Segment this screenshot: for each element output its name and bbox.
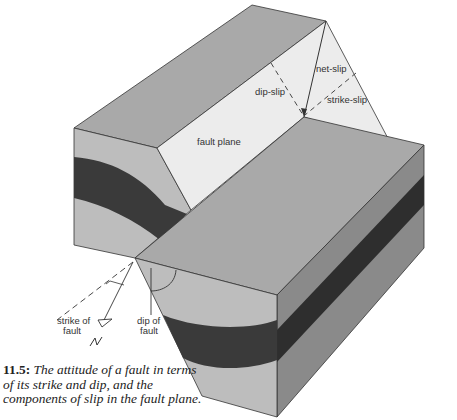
north-n-symbol <box>90 337 102 346</box>
label-dip-of-fault-2: fault <box>140 325 158 336</box>
strike-line <box>57 262 133 320</box>
caption-text: The attitude of a fault in terms of its … <box>3 362 201 406</box>
figure-caption: 11.5: The attitude of a fault in terms o… <box>3 363 203 407</box>
label-strike-of-fault-2: fault <box>63 325 81 336</box>
north-line <box>104 262 133 320</box>
label-fault-plane: fault plane <box>197 136 241 147</box>
strike-angle-mark <box>106 281 124 285</box>
caption-number: 11.5: <box>3 362 30 377</box>
fault-block-diagram: net-slip dip-slip strike-slip fault plan… <box>0 0 457 420</box>
label-net-slip: net-slip <box>316 63 347 74</box>
label-strike-slip: strike-slip <box>327 94 367 105</box>
north-arrow-triangle <box>98 319 112 327</box>
label-dip-slip: dip-slip <box>255 86 285 97</box>
